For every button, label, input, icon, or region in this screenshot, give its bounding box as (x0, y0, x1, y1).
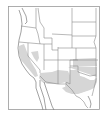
range-map (0, 0, 108, 120)
range-kansas (73, 58, 97, 67)
range-map-svg (0, 0, 108, 120)
